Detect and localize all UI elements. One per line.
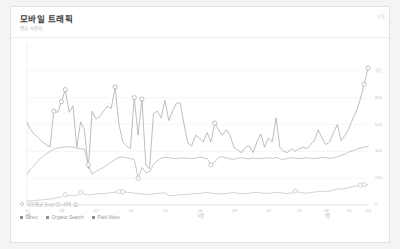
legend-item[interactable]: Direct: [20, 215, 38, 220]
legend-item[interactable]: Organic Search: [46, 215, 84, 220]
chart-legend: DirectOrganic SearchPaid Video: [20, 215, 120, 220]
series-direct: [27, 66, 370, 169]
card-header: 모바일 트래픽 평균 사용자 단위: [11, 7, 390, 38]
legend-swatch-icon: [46, 216, 49, 219]
moving-average-option[interactable]: 이동평균 표시(7일 / 선택 값): [20, 201, 78, 207]
y-axis-unit-label: 단위: [377, 13, 385, 19]
moving-average-label: 이동평균 표시(7일 / 선택 값): [27, 201, 78, 207]
chart-card: 모바일 트래픽 평균 사용자 단위 02004006008001천 011월04…: [10, 6, 390, 243]
series-paid-video: [27, 183, 368, 201]
radio-icon[interactable]: [20, 202, 24, 206]
legend-swatch-icon: [20, 216, 23, 219]
legend-label: Paid Video: [98, 215, 120, 220]
legend-swatch-icon: [92, 216, 95, 219]
plot-area: 02004006008001천 011월04071013166월19222528…: [11, 38, 390, 243]
legend-item[interactable]: Paid Video: [92, 215, 120, 220]
page-title: 모바일 트래픽: [20, 12, 73, 24]
line-chart-svg[interactable]: [11, 38, 390, 243]
legend-label: Direct: [26, 215, 38, 220]
screenshot-root: 모바일 트래픽 평균 사용자 단위 02004006008001천 011월04…: [0, 0, 400, 249]
chart-subtitle: 평균 사용자: [20, 25, 42, 31]
legend-label: Organic Search: [52, 215, 84, 220]
